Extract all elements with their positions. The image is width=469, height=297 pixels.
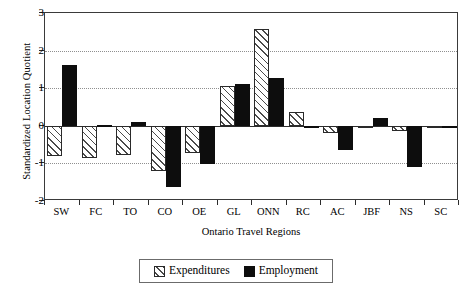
bar-rc-expenditures — [289, 112, 304, 126]
bar-ns-employment — [407, 126, 422, 167]
legend-swatch-employment-icon — [244, 266, 255, 277]
x-tick-label-sc: SC — [419, 206, 463, 219]
bar-group — [80, 13, 115, 199]
bar-fc-expenditures — [82, 126, 97, 158]
bar-co-employment — [166, 126, 181, 187]
bar-to-expenditures — [116, 126, 131, 155]
x-tick-mark — [286, 200, 287, 205]
y-tick-label: 2 — [18, 44, 44, 55]
bar-co-expenditures — [151, 126, 166, 171]
bar-group — [252, 13, 287, 199]
y-tick-label: -2 — [18, 195, 44, 206]
legend-label-employment: Employment — [259, 265, 318, 277]
legend-entry-employment: Employment — [244, 265, 318, 277]
x-tick-mark — [217, 200, 218, 205]
y-tick-label: 1 — [18, 82, 44, 93]
bar-sw-employment — [62, 65, 77, 126]
bar-sw-expenditures — [47, 126, 62, 156]
bar-onn-expenditures — [254, 29, 269, 126]
bar-sc-expenditures — [427, 126, 442, 128]
bar-group — [149, 13, 184, 199]
bar-group — [183, 13, 218, 199]
x-tick-mark — [251, 200, 252, 205]
x-tick-mark — [458, 200, 459, 205]
bar-group — [425, 13, 460, 199]
bar-gl-employment — [235, 84, 250, 126]
bar-group — [218, 13, 253, 199]
x-tick-mark — [113, 200, 114, 205]
x-tick-mark — [148, 200, 149, 205]
bar-rc-employment — [304, 126, 319, 128]
chart-figure: Standardized Location Quotient 3210-1-2 … — [0, 0, 469, 297]
y-tick-label: 3 — [18, 7, 44, 18]
bar-ns-expenditures — [392, 126, 407, 131]
x-tick-mark — [355, 200, 356, 205]
bar-fc-employment — [97, 125, 112, 127]
x-tick-mark — [79, 200, 80, 205]
x-axis-title: Ontario Travel Regions — [44, 226, 458, 237]
chart-legend: Expenditures Employment — [139, 259, 333, 283]
legend-label-expenditures: Expenditures — [169, 265, 230, 277]
bar-group — [287, 13, 322, 199]
bar-oe-employment — [200, 126, 215, 164]
legend-entry-expenditures: Expenditures — [154, 265, 230, 277]
bar-ac-expenditures — [323, 126, 338, 133]
x-tick-mark — [44, 200, 45, 205]
bar-oe-expenditures — [185, 126, 200, 153]
bar-jbf-expenditures — [358, 126, 373, 128]
bar-ac-employment — [338, 126, 353, 150]
bar-gl-expenditures — [220, 86, 235, 126]
bar-group — [114, 13, 149, 199]
bar-group — [321, 13, 356, 199]
x-tick-mark — [424, 200, 425, 205]
plot-area — [44, 12, 458, 200]
bar-onn-employment — [269, 78, 284, 126]
legend-swatch-expenditures-icon — [154, 266, 165, 277]
x-axis-tick-labels: SWFCTOCOOEGLONNRCACJBFNSSC — [44, 206, 458, 222]
x-tick-mark — [389, 200, 390, 205]
y-tick-label: -1 — [18, 157, 44, 168]
bar-jbf-employment — [373, 118, 388, 126]
x-tick-mark — [320, 200, 321, 205]
bar-group — [390, 13, 425, 199]
bar-sc-employment — [442, 126, 457, 128]
bar-group — [356, 13, 391, 199]
plot-inner — [45, 13, 457, 199]
bar-to-employment — [131, 122, 146, 126]
y-axis-ticks: 3210-1-2 — [10, 12, 44, 200]
bar-group — [45, 13, 80, 199]
y-tick-label: 0 — [18, 119, 44, 130]
x-tick-mark — [182, 200, 183, 205]
